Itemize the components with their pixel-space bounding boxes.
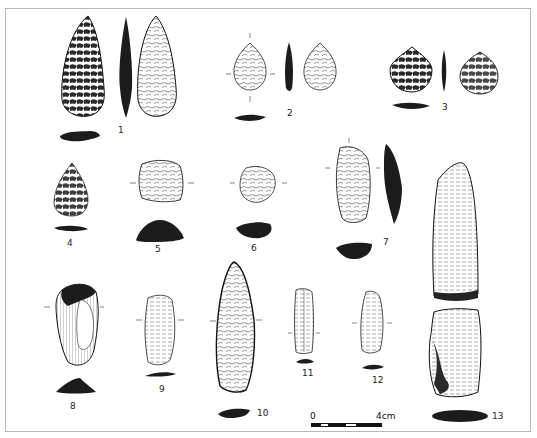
artifact-label-4: 4 [67,239,73,248]
artifact-4 [54,163,88,231]
artifact-label-12: 12 [372,376,383,385]
artifact-label-11: 11 [302,369,313,378]
artifact-9 [136,295,184,376]
artifact-3 [390,47,498,109]
artifact-label-8: 8 [70,402,76,411]
scale-bar [311,423,382,427]
artifact-label-13: 13 [492,412,503,421]
artifact-8 [44,284,104,393]
artifact-6 [230,166,287,238]
artifact-5 [130,160,194,242]
artifact-11 [288,289,320,364]
artifact-plate [0,0,537,438]
artifact-label-9: 9 [159,385,165,394]
artifact-label-5: 5 [155,245,161,254]
artifact-label-10: 10 [257,409,268,418]
artifact-label-6: 6 [251,244,257,253]
artifact-13 [429,163,488,422]
artifact-2 [226,33,336,121]
artifact-label-3: 3 [442,103,448,112]
artifact-label-2: 2 [287,109,293,118]
artifact-label-1: 1 [118,126,124,135]
artifact-label-7: 7 [383,238,389,247]
artifact-7 [325,138,402,259]
artifact-12 [352,291,392,369]
scale-end-label: 4cm [376,412,395,421]
artifact-1 [60,16,176,141]
artifact-10 [210,262,262,418]
scale-start-label: 0 [310,412,316,421]
